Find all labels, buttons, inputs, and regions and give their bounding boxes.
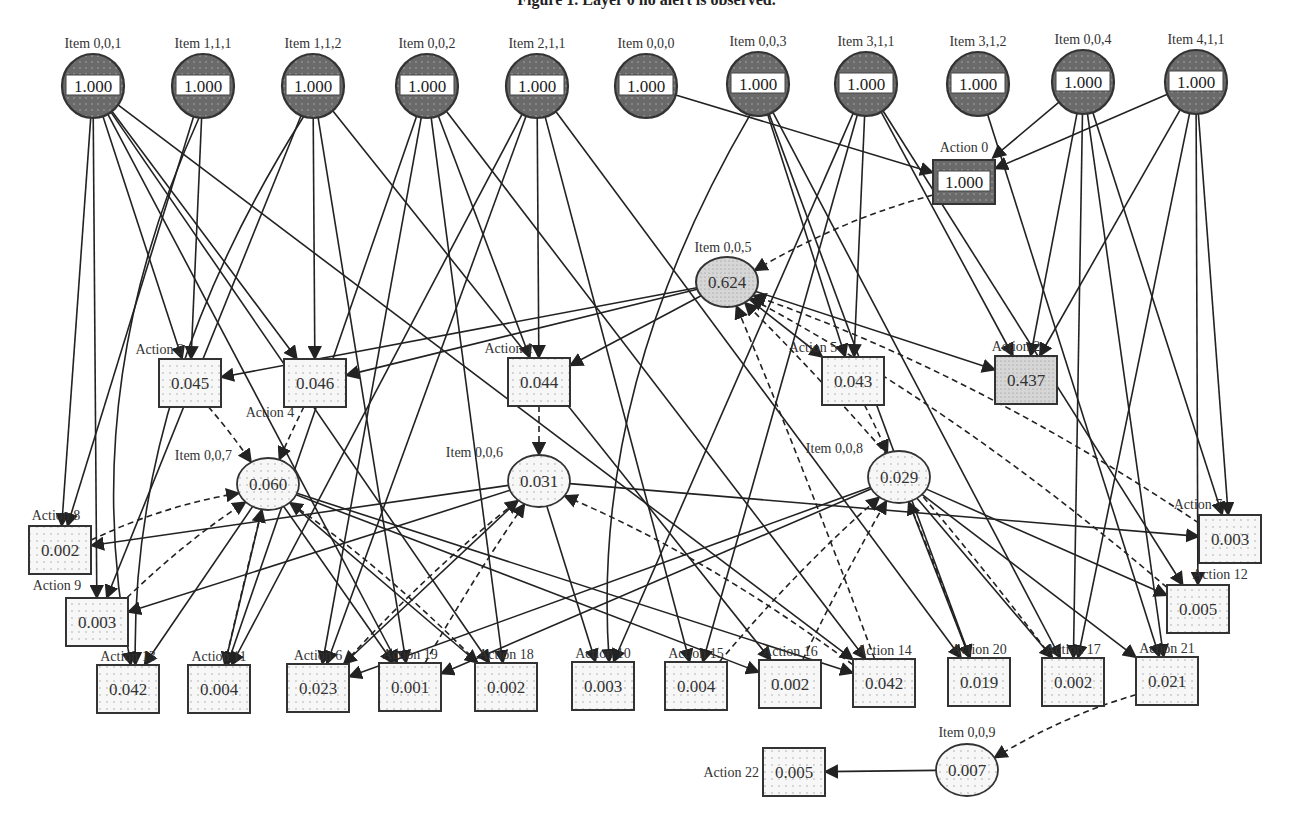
causal-edge [313,118,315,359]
node-value: 1.000 [739,75,777,94]
node-label: Action 20 [951,642,1007,657]
action-node-a3[interactable]: 0.045Action 3 [135,342,221,407]
item-node-i009[interactable]: 0.007Item 0,0,9 [936,725,998,796]
item-node-i112[interactable]: 1.000Item 1,1,2 [282,36,344,118]
causal-edge [1087,114,1163,657]
node-label: Action 3 [135,342,184,357]
node-label: Action 11 [191,649,246,664]
node-label: Action 18 [478,647,534,662]
action-node-a17[interactable]: 0.002Action 17 [1042,642,1104,706]
item-node-i312[interactable]: 1.000Item 3,1,2 [947,34,1009,116]
action-node-a21[interactable]: 0.021Action 21 [1136,641,1198,705]
causal-edge [854,116,865,357]
causal-edge [613,113,853,662]
node-value: 1.000 [408,77,446,96]
node-label: Item 4,1,1 [1167,32,1224,47]
causal-edge [128,490,510,612]
node-label: Item 2,1,1 [508,36,565,51]
node-value: 0.437 [1007,371,1046,390]
item-node-i000[interactable]: 1.000Item 0,0,0 [615,36,677,118]
action-node-a10[interactable]: 0.003Action 10 [572,646,634,710]
action-node-a0[interactable]: 1.000Action 0 [933,140,995,204]
bayesian-network-diagram: 1.000Item 0,0,11.000Item 1,1,11.000Item … [0,0,1293,816]
node-value: 0.042 [109,680,147,699]
item-node-i005[interactable]: 0.624Item 0,0,5 [694,240,758,307]
causal-edge [118,105,853,660]
action-node-a2[interactable]: 0.437Action 2 [992,339,1057,404]
node-value: 0.002 [487,678,525,697]
node-label: Action 22 [703,765,759,780]
causal-edge [993,102,1059,158]
node-label: Action 13 [100,649,156,664]
node-value: 0.007 [948,761,987,780]
node-value: 1.000 [959,75,997,94]
action-node-a8[interactable]: 0.002Action 8 [29,508,91,574]
causal-edge [537,118,539,358]
node-value: 0.045 [171,374,209,393]
node-value: 0.021 [1148,672,1186,691]
causal-edge [547,506,596,662]
item-node-i411[interactable]: 1.000Item 4,1,1 [1165,32,1227,114]
action-node-a7[interactable]: 0.003Action 7 [1174,497,1261,563]
item-node-i111[interactable]: 1.000Item 1,1,1 [172,36,234,118]
causal-edge [570,296,701,366]
action-node-a20[interactable]: 0.019Action 20 [948,642,1010,706]
causal-edge [926,489,1167,595]
item-node-i211[interactable]: 1.000Item 2,1,1 [506,36,568,118]
causal-edge [93,118,97,598]
node-value: 0.002 [1054,673,1092,692]
action-node-a15[interactable]: 0.004Action 15 [665,646,727,710]
action-node-a9[interactable]: 0.003Action 9 [33,578,128,646]
node-label: Action 8 [32,508,81,523]
action-node-a19[interactable]: 0.001Action 19 [379,647,441,711]
causal-edge [108,114,398,663]
causal-edge [284,506,394,663]
item-node-i003[interactable]: 1.000Item 0,0,3 [727,34,789,116]
action-node-a4[interactable]: 0.046Action 4 [246,359,346,420]
action-node-a18[interactable]: 0.002Action 18 [475,647,537,711]
effect-edge-dashed [865,405,888,453]
action-node-a1[interactable]: 0.044Action 1 [484,341,570,406]
causal-edge [922,494,1136,657]
node-value: 0.005 [1179,600,1217,619]
node-label: Action 6 [294,648,343,663]
action-node-a13[interactable]: 0.042Action 13 [97,649,159,713]
node-label: Item 0,0,4 [1054,32,1111,47]
item-node-i311[interactable]: 1.000Item 3,1,1 [835,34,897,116]
node-label: Item 3,1,2 [949,34,1006,49]
effect-edge-dashed [753,295,1199,523]
item-node-i008[interactable]: 0.029Item 0,0,8 [806,441,930,503]
node-label: Item 0,0,5 [694,240,751,255]
node-value: 1.000 [294,77,332,96]
action-node-a11[interactable]: 0.004Action 11 [188,649,250,713]
node-value: 0.003 [78,613,116,632]
node-label: Action 1 [484,341,533,356]
item-node-i002[interactable]: 1.000Item 0,0,2 [396,36,458,118]
action-node-a22[interactable]: 0.005Action 22 [703,748,825,796]
node-value: 1.000 [184,77,222,96]
node-label: Action 0 [940,140,989,155]
node-label: Action 19 [382,647,438,662]
node-value: 0.029 [880,468,918,487]
node-label: Action 10 [575,646,631,661]
causal-edge [191,118,202,359]
node-value: 0.043 [834,372,872,391]
node-label: Item 0,0,3 [729,34,786,49]
node-value: 0.002 [41,541,79,560]
node-value: 1.000 [74,77,112,96]
node-label: Action 12 [1192,567,1248,582]
item-node-i006[interactable]: 0.031Item 0,0,6 [446,445,570,507]
node-value: 0.019 [960,673,998,692]
node-label: Item 0,0,2 [398,36,455,51]
item-node-i001[interactable]: 1.000Item 0,0,1 [62,36,124,118]
action-node-a5[interactable]: 0.043Action 5 [789,340,884,405]
causal-edge [676,95,933,173]
action-node-a6[interactable]: 0.023Action 6 [287,648,349,712]
node-value: 0.002 [771,675,809,694]
causal-edge [1073,114,1082,658]
action-node-a12[interactable]: 0.005Action 12 [1167,567,1248,633]
action-node-a16[interactable]: 0.002Action 16 [759,644,821,708]
causal-edge [825,770,936,771]
action-node-a14[interactable]: 0.042Action 14 [853,643,915,707]
item-node-i004[interactable]: 1.000Item 0,0,4 [1052,32,1114,114]
